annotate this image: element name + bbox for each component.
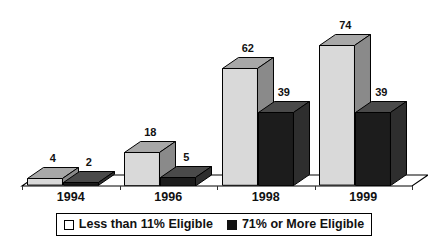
bar-front-face	[161, 177, 196, 186]
bar-chart: 4218562397439 1994199619981999 Less than…	[0, 0, 428, 245]
bar-side-face	[391, 101, 407, 185]
bar-1994-dark	[63, 171, 115, 186]
category-label-1996: 1996	[128, 191, 208, 204]
bar-front-face	[356, 112, 391, 185]
bar-shape	[355, 101, 407, 186]
category-label-1999: 1999	[323, 191, 403, 204]
axis-tick	[217, 186, 218, 190]
bar-shape	[258, 101, 310, 186]
bar-side-face	[293, 101, 309, 185]
plot-area: 4218562397439 1994199619981999	[0, 0, 428, 196]
legend-label-light: Less than 11% Eligible	[79, 218, 213, 231]
bars-layer: 4218562397439	[0, 0, 428, 196]
value-label-1999-light: 74	[327, 20, 363, 31]
bar-front-face	[27, 179, 62, 186]
axis-tick	[412, 186, 413, 190]
chart-legend: Less than 11% Eligible 71% or More Eligi…	[56, 213, 372, 236]
axis-tick	[22, 186, 23, 190]
value-label-1998-light: 62	[230, 43, 266, 54]
value-label-1998-dark: 39	[266, 87, 302, 98]
bar-front-face	[320, 46, 355, 186]
bar-front-face	[222, 69, 257, 186]
bar-shape	[63, 171, 115, 186]
axis-tick	[315, 186, 316, 190]
legend-swatch-dark-icon	[227, 220, 237, 230]
legend-swatch-light-icon	[64, 220, 74, 230]
axis-tick	[120, 186, 121, 190]
legend-label-dark: 71% or More Eligible	[242, 218, 364, 231]
legend-entry-dark: 71% or More Eligible	[227, 218, 364, 231]
bar-1996-dark	[160, 166, 212, 187]
category-label-1994: 1994	[31, 191, 111, 204]
bar-shape	[160, 166, 212, 187]
legend-entry-light: Less than 11% Eligible	[64, 218, 213, 231]
value-label-1996-light: 18	[132, 127, 168, 138]
bar-1999-dark	[355, 101, 407, 186]
category-label-1998: 1998	[226, 191, 306, 204]
bar-1998-dark	[258, 101, 310, 186]
bar-front-face	[125, 152, 160, 185]
bar-front-face	[258, 112, 293, 185]
value-label-1999-dark: 39	[363, 87, 399, 98]
value-label-1994-light: 4	[35, 153, 71, 164]
value-label-1996-dark: 5	[168, 152, 204, 163]
value-label-1994-dark: 2	[71, 157, 107, 168]
